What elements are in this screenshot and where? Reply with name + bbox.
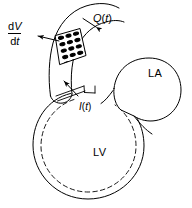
left-atrium-label: LA xyxy=(148,68,162,79)
fraction-bar xyxy=(8,33,21,34)
current-label: I(t) xyxy=(79,102,91,112)
time-symbol: t xyxy=(16,35,19,47)
heart-schematic-figure: dV dt Q(t) I(t) LA LV xyxy=(0,0,192,208)
heart-diagram-svg xyxy=(0,0,192,208)
left-ventricle-label: LV xyxy=(93,147,107,158)
flow-label: Q(t) xyxy=(93,13,112,24)
volume-symbol: V xyxy=(14,20,21,32)
dv-dt-denominator: dt xyxy=(8,35,21,47)
dv-dt-numerator: dV xyxy=(8,21,21,33)
dv-dt-label: dV dt xyxy=(8,21,21,47)
